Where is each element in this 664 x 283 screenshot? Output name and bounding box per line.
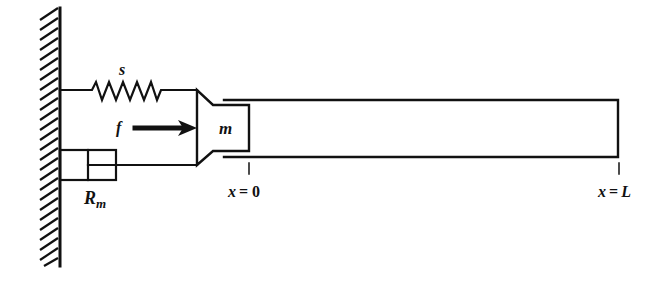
force-label: f (116, 119, 123, 137)
tube-walls (224, 100, 618, 157)
damper (60, 150, 197, 180)
x0-label: x= 0 (227, 183, 260, 200)
xL-label: x=L (597, 183, 631, 200)
tube (224, 100, 618, 157)
diagram-canvas: s Rm f m x= 0 x=L (0, 0, 664, 283)
force-arrow (135, 120, 197, 136)
damper-label: Rm (83, 188, 106, 211)
spring-label: s (118, 61, 125, 78)
spring-coil (60, 82, 197, 100)
fixed-wall (40, 8, 60, 266)
spring (60, 82, 197, 100)
mechanical-diagram: s Rm f m x= 0 x=L (0, 0, 664, 283)
mass-label: m (219, 119, 232, 138)
wall-hatching (40, 8, 58, 266)
